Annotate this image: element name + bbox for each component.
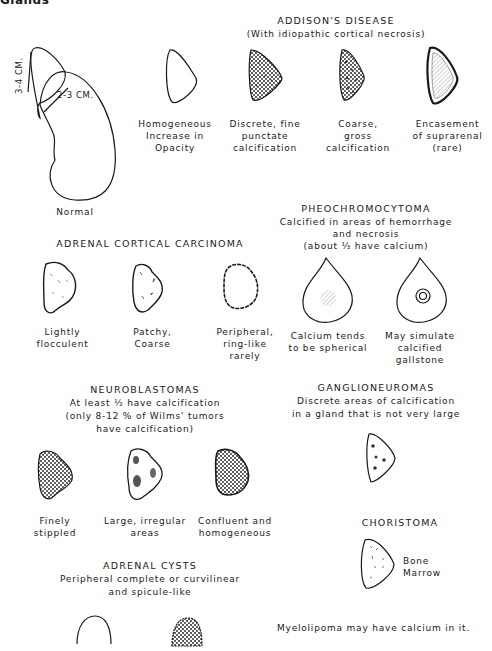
confluent-homogeneous-drawing [212, 447, 257, 507]
normal-width-dimension: 2-3 CM. [57, 90, 94, 100]
peripheral-ring-drawing [220, 262, 265, 320]
myelolipoma-note: Myelolipoma may have calcium in it. [255, 622, 492, 635]
neuroblastoma-item-label: Large, irregular areas [95, 515, 195, 539]
carcinoma-item-label: Peripheral, ring-like rarely [205, 326, 285, 362]
section-title: NEUROBLASTOMAS [40, 384, 250, 395]
large-irregular-areas-drawing [125, 447, 170, 507]
coarse-gross-drawing [338, 48, 378, 108]
finely-stippled-drawing [36, 448, 81, 508]
bone-marrow-annotation: Bone Marrow [403, 555, 443, 579]
normal-label: Normal [40, 206, 110, 218]
section-title: ADRENAL CYSTS [40, 560, 260, 571]
carcinoma-item-label: Patchy, Coarse [115, 326, 190, 350]
section-subtitle: in a gland that is not very large [260, 408, 492, 421]
fine-punctate-drawing [247, 48, 292, 108]
addisons-item-label: Coarse, gross calcification [318, 118, 398, 154]
section-subtitle: (only 8-12 % of Wilms' tumors [40, 410, 250, 423]
pheochromocytoma-item-label: May simulate calcified gallstone [375, 330, 465, 366]
spherical-calcium-drawing [298, 256, 358, 326]
section-subtitle: (With idiopathic cortical necrosis) [180, 28, 492, 41]
section-subtitle: and spicule-like [40, 586, 260, 599]
gallstone-simulation-drawing [392, 256, 452, 326]
addisons-item-label: Homogeneous Increase in Opacity [135, 118, 215, 154]
section-title: GANGLIONEUROMAS [260, 382, 492, 393]
addisons-item-label: Encasement of suprarenal (rare) [405, 118, 490, 154]
neuroblastoma-item-label: Finely stippled [20, 515, 90, 539]
carcinoma-item-label: Lightly flocculent [25, 326, 100, 350]
normal-kidney-adrenal-drawing [0, 0, 130, 220]
ganglioneuroma-drawing [365, 432, 400, 487]
cyst-spicule-drawing [170, 616, 210, 651]
patchy-coarse-drawing [130, 262, 175, 320]
section-title: PHEOCHROMOCYTOMA [240, 203, 492, 214]
section-subtitle: (about ⅓ have calcium) [240, 240, 492, 253]
lightly-flocculent-drawing [40, 260, 85, 320]
homogeneous-opacity-drawing [160, 48, 205, 108]
section-subtitle: Discrete areas of calcification [260, 395, 492, 408]
pheochromocytoma-item-label: Calcium tends to be spherical [283, 330, 373, 354]
choristoma-drawing [360, 536, 400, 594]
section-subtitle: Peripheral complete or curvilinear [40, 573, 260, 586]
section-title: ADDISON'S DISEASE [180, 15, 492, 26]
section-subtitle: At least ½ have calcification [40, 397, 250, 410]
cyst-curvilinear-drawing [75, 614, 115, 651]
addisons-item-label: Discrete, fine punctate calcification [225, 118, 305, 154]
section-title: ADRENAL CORTICAL CARCINOMA [40, 238, 260, 249]
section-title: CHORISTOMA [340, 517, 460, 528]
section-subtitle: have calcification) [40, 423, 250, 436]
dimension-label: 3-4 CM. [14, 57, 24, 94]
neuroblastoma-item-label: Confluent and homogeneous [190, 515, 280, 539]
encasement-drawing [425, 45, 470, 110]
normal-height-dimension: 3-4 CM. [14, 44, 28, 104]
